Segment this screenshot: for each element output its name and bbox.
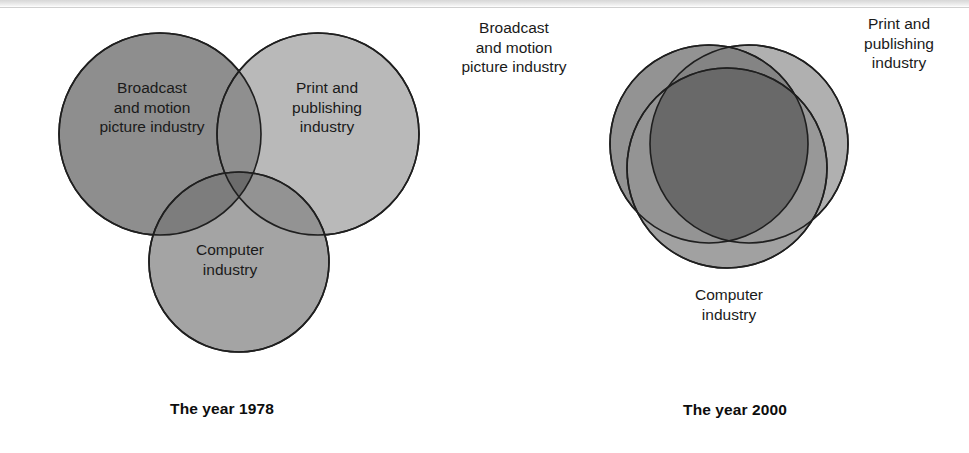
panel-caption-2000: The year 2000: [484, 401, 969, 419]
venn-stage-2000: Broadcast and motion picture industry Pr…: [484, 0, 969, 453]
panel-year-2000: Broadcast and motion picture industry Pr…: [484, 0, 969, 453]
venn-graphic-2000: [484, 0, 969, 400]
panel-caption-1978: The year 1978: [0, 400, 444, 418]
panel-year-1978: Broadcast and motion picture industry Pr…: [0, 0, 484, 453]
venn-graphic-1978: [0, 0, 484, 400]
venn-stage-1978: Broadcast and motion picture industry Pr…: [0, 0, 484, 453]
